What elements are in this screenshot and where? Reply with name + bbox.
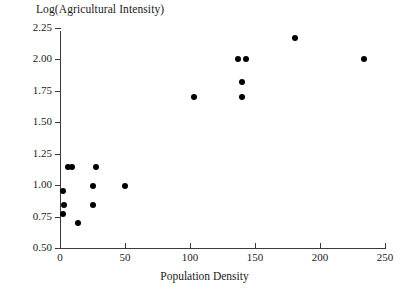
x-tick-label: 150 bbox=[247, 251, 264, 263]
y-tick-label: 2.25 bbox=[0, 21, 52, 33]
y-tick-label: 1.50 bbox=[0, 115, 52, 127]
x-tick-mark bbox=[190, 243, 191, 249]
y-tick-mark bbox=[55, 217, 61, 218]
x-tick-mark bbox=[255, 243, 256, 249]
y-tick-label: 1.25 bbox=[0, 147, 52, 159]
x-tick-mark bbox=[125, 243, 126, 249]
data-point bbox=[60, 188, 66, 194]
y-tick-mark bbox=[55, 154, 61, 155]
data-point bbox=[75, 220, 81, 226]
data-point bbox=[292, 35, 298, 41]
y-tick-label: 2.00 bbox=[0, 52, 52, 64]
data-point bbox=[361, 56, 367, 62]
x-tick-label: 100 bbox=[182, 251, 199, 263]
data-point bbox=[90, 183, 96, 189]
y-tick-mark bbox=[55, 122, 61, 123]
data-point bbox=[60, 211, 66, 217]
x-tick-label: 200 bbox=[312, 251, 329, 263]
y-tick-mark bbox=[55, 59, 61, 60]
x-tick-mark bbox=[320, 243, 321, 249]
x-tick-mark bbox=[60, 243, 61, 249]
x-tick-mark bbox=[385, 243, 386, 249]
y-tick-label: 1.00 bbox=[0, 178, 52, 190]
data-point bbox=[239, 94, 245, 100]
y-axis-title: Log(Agricultural Intensity) bbox=[36, 3, 164, 15]
data-point bbox=[191, 94, 197, 100]
data-point bbox=[90, 202, 96, 208]
data-point bbox=[243, 56, 249, 62]
data-point bbox=[93, 164, 99, 170]
y-tick-mark bbox=[55, 91, 61, 92]
y-tick-mark bbox=[55, 28, 61, 29]
data-point bbox=[61, 202, 67, 208]
x-axis-title: Population Density bbox=[0, 270, 409, 282]
data-point bbox=[69, 164, 75, 170]
x-tick-label: 50 bbox=[120, 251, 131, 263]
scatter-plot-figure: Log(Agricultural Intensity) 0.500.751.00… bbox=[0, 0, 409, 293]
data-point bbox=[122, 183, 128, 189]
data-point bbox=[239, 79, 245, 85]
x-axis-line bbox=[59, 248, 386, 249]
y-tick-label: 0.50 bbox=[0, 241, 52, 253]
data-point bbox=[235, 56, 241, 62]
y-tick-label: 1.75 bbox=[0, 84, 52, 96]
y-tick-mark bbox=[55, 185, 61, 186]
x-tick-label: 250 bbox=[377, 251, 394, 263]
y-tick-label: 0.75 bbox=[0, 210, 52, 222]
x-tick-label: 0 bbox=[57, 251, 63, 263]
